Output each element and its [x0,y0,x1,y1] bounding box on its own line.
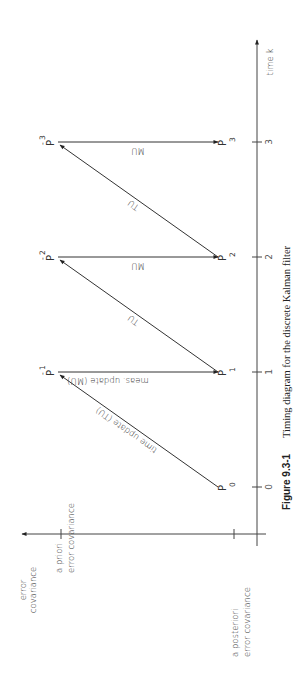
covariance-axis-label-2: covariance [28,567,38,613]
a-priori-label-2: error covariance [66,503,76,573]
time-axis-label: time k [265,49,275,76]
time-updates: time update (TU) TU TU [60,145,218,487]
mu-label-3: MU [131,146,145,156]
svg-text:P: P [217,485,228,491]
kalman-timing-diagram: 0 1 2 3 time k error covariance a priori… [0,0,299,690]
svg-text:0: 0 [228,482,237,487]
tu-label-1: time update (TU) [94,405,159,455]
a-posteriori-label-1: a posteriori [230,609,240,657]
node-p2: P 2 [217,252,237,261]
covariance-axis: error covariance a priori error covarian… [18,503,266,657]
prior-nodes: P - 1 P - 2 P - 3 [38,135,56,376]
tu-arrow-3 [60,145,218,257]
figure-caption-text: Timing diagram for the discrete Kalman f… [281,245,292,438]
a-priori-label-1: a priori [54,543,64,573]
tick-label-0: 0 [264,484,274,490]
svg-text:3: 3 [38,135,47,140]
node-p1-prior: P - 1 [38,365,56,376]
tick-label-1: 1 [264,369,274,375]
svg-text:1: 1 [228,367,237,372]
svg-text:1: 1 [38,365,47,370]
figure-number: Figure 9.3-1 [281,453,292,510]
svg-text:P: P [217,370,228,376]
svg-text:3: 3 [228,137,237,142]
svg-text:-: - [38,142,47,145]
svg-text:-: - [38,372,47,375]
svg-text:-: - [38,257,47,260]
mu-label-1: meas. update (MU) [67,376,148,386]
node-p3: P 3 [217,137,237,146]
node-p2-prior: P - 2 [38,250,56,261]
svg-text:P: P [217,255,228,261]
svg-text:P: P [217,140,228,146]
time-axis: 0 1 2 3 time k [252,40,275,546]
covariance-axis-label-1: error [18,579,28,600]
node-p1: P 1 [217,367,237,376]
svg-text:2: 2 [38,250,47,255]
tick-label-3: 3 [264,139,274,145]
measurement-updates: meas. update (MU) MU MU [58,142,218,386]
mu-label-2: MU [131,261,145,271]
figure-caption: Figure 9.3-1 Timing diagram for the disc… [281,245,292,510]
node-p3-prior: P - 3 [38,135,56,146]
a-posteriori-label-2: error covariance [242,587,252,657]
posterior-nodes: P 0 P 1 P 2 P 3 [217,137,237,491]
tu-arrow-2 [60,260,218,372]
node-p0: P 0 [217,482,237,491]
svg-text:2: 2 [228,252,237,257]
tick-label-2: 2 [264,254,274,260]
tu-arrow-1 [60,375,218,487]
